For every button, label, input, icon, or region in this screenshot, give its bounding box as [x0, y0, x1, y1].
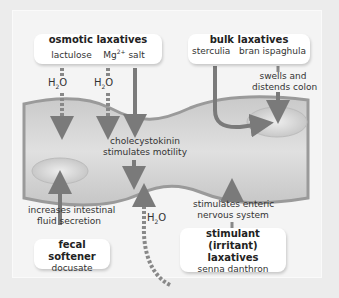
- osmotic-title: osmotic laxatives: [34, 34, 162, 46]
- enteric-label: stimulates enteric nervous system: [193, 199, 273, 221]
- lactulose-label: lactulose: [51, 50, 91, 60]
- stimulant-laxatives-box: stimulant (irritant) laxatives senna dan…: [180, 228, 286, 272]
- secretion-label: increases intestinal fluid secretion: [28, 205, 110, 227]
- cck-label: cholecystokinin stimulates motility: [100, 136, 190, 158]
- swells-label: swells and distends colon: [252, 71, 314, 93]
- water-label-3: H2O: [147, 212, 166, 227]
- bulk-title: bulk laxatives: [188, 34, 310, 46]
- fecal-softener-box: fecal softener docusate: [34, 239, 110, 269]
- water-label-1: H2O: [48, 77, 67, 92]
- mg-label: Mg: [103, 50, 116, 60]
- water-label-2: H2O: [94, 77, 113, 92]
- bulk-laxatives-box: bulk laxatives sterculia bran ispaghula: [188, 34, 310, 64]
- fluid-bolus-left: [32, 158, 88, 184]
- osmotic-laxatives-box: osmotic laxatives lactulose Mg2+ salt: [34, 34, 162, 64]
